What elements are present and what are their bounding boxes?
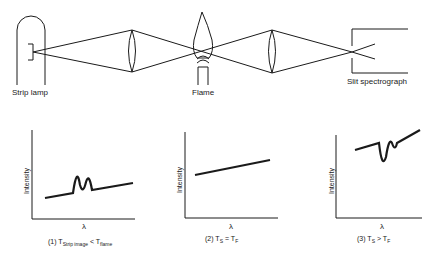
lens-1-icon bbox=[129, 30, 136, 72]
flame-label: Flame bbox=[192, 88, 214, 97]
plot-1-xlabel: λ bbox=[82, 222, 86, 231]
plot-3-xlabel: λ bbox=[380, 222, 384, 231]
plot-2-caption: (2) TS = TF bbox=[205, 235, 238, 244]
lens-2-icon bbox=[269, 30, 276, 73]
plot-2-xlabel: λ bbox=[229, 222, 233, 231]
filament-icon bbox=[28, 44, 33, 60]
optical-diagram bbox=[0, 0, 440, 254]
plot-3-caption: (3) TS > TF bbox=[357, 235, 390, 244]
strip-lamp-label: Strip lamp bbox=[12, 88, 48, 97]
slit-spectrograph-label: Slit spectrograph bbox=[347, 77, 407, 86]
plot-3-ylabel: Intensity bbox=[328, 168, 335, 194]
plot-1-caption: (1) TStrip image < Tflame bbox=[48, 238, 112, 247]
plot-1-ylabel: Intensity bbox=[23, 168, 30, 194]
slit-spectrograph-icon bbox=[352, 29, 408, 73]
plot-2-ylabel: Intensity bbox=[176, 167, 183, 193]
